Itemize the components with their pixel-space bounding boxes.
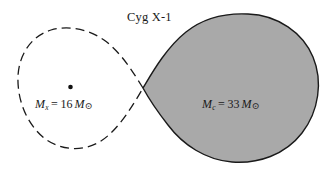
companion-equals-sign: =	[216, 97, 228, 111]
primary-equals-sign: =	[49, 97, 61, 111]
primary-mass-unit-symbol: M	[74, 97, 84, 111]
solar-mass-icon: ⊙	[251, 101, 259, 111]
figure-title: Cyg X-1	[127, 11, 172, 24]
companion-mass-unit-symbol: M	[241, 97, 251, 111]
companion-mass-value: 33	[227, 97, 241, 111]
center-dot-icon	[68, 85, 73, 90]
roche-lobe-figure: Cyg X-1 Mx=16M⊙ Mc=33M⊙	[0, 0, 326, 172]
companion-mass-label: Mc=33M⊙	[202, 98, 260, 112]
solar-mass-icon: ⊙	[84, 101, 92, 111]
companion-mass-symbol: M	[202, 97, 212, 111]
primary-mass-symbol: M	[35, 97, 45, 111]
roche-lobe-diagram	[0, 0, 326, 172]
primary-mass-value: 16	[60, 97, 74, 111]
primary-mass-label: Mx=16M⊙	[35, 98, 93, 112]
